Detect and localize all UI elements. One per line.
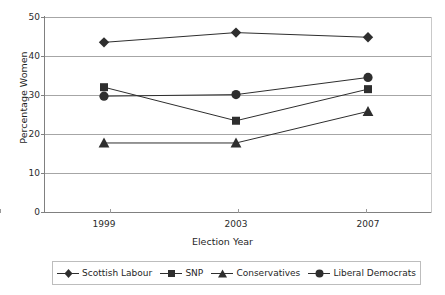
x-tick-mark-spacer (0, 209, 1, 213)
line-chart: 50 40 30 20 10 0 1999 2003 2007 Percenta… (0, 0, 445, 295)
legend-label: Liberal Democrats (333, 268, 415, 278)
legend-item-snp[interactable]: SNP (160, 268, 203, 278)
legend-label: SNP (185, 268, 203, 278)
x-axis-title: Election Year (0, 236, 445, 247)
legend-item-conservatives[interactable]: Conservatives (211, 268, 300, 278)
gridline-20 (45, 134, 431, 135)
gridline-50 (45, 17, 431, 18)
circle-marker-icon (308, 268, 330, 278)
y-tick-mark-40 (41, 56, 45, 57)
y-axis-line (44, 16, 45, 213)
plot-right-border (431, 17, 432, 213)
triangle-marker-icon (211, 268, 233, 278)
diamond-marker-icon (57, 268, 79, 278)
square-marker-icon (160, 268, 182, 278)
legend-label: Scottish Labour (82, 268, 152, 278)
y-axis-title: Percentage Women (18, 28, 29, 168)
gridline-40 (45, 56, 431, 57)
y-tick-label-10: 10 (6, 169, 40, 178)
legend-item-liberal-democrats[interactable]: Liberal Democrats (308, 268, 415, 278)
y-tick-label-50: 50 (6, 13, 40, 22)
y-tick-mark-50 (41, 17, 45, 18)
legend-item-scottish-labour[interactable]: Scottish Labour (57, 268, 152, 278)
gridline-30 (45, 95, 431, 96)
x-tick-label-2003: 2003 (206, 219, 266, 229)
x-tick-label-1999: 1999 (74, 219, 134, 229)
legend-label: Conservatives (236, 268, 300, 278)
chart-legend: Scottish Labour SNP Conservatives (52, 261, 421, 285)
gridline-10 (45, 173, 431, 174)
plot-area (45, 17, 431, 212)
x-tick-label-2007: 2007 (338, 219, 398, 229)
y-tick-mark-30 (41, 95, 45, 96)
x-tick-mark-2007 (366, 209, 367, 213)
y-tick-mark-20 (41, 134, 45, 135)
x-tick-mark-2003 (238, 209, 239, 213)
y-tick-mark-0 (41, 212, 45, 213)
y-tick-label-0: 0 (6, 208, 40, 217)
x-tick-mark-1999 (110, 209, 111, 213)
y-tick-mark-10 (41, 173, 45, 174)
